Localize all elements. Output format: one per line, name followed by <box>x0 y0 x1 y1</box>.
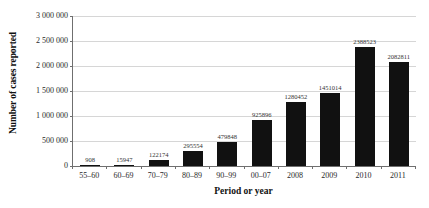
y-axis-tick-label: 2 500 000 <box>16 37 68 45</box>
bar-slot: 295554 <box>176 16 210 166</box>
bar-value-label: 2082811 <box>388 53 411 60</box>
bar-slot: 1451014 <box>313 16 347 166</box>
y-axis-tick-label: 2 000 000 <box>16 62 68 70</box>
bar[interactable] <box>252 120 272 166</box>
y-axis-tick-labels: 0500 0001 000 0001 500 0002 000 0002 500… <box>14 0 68 208</box>
x-axis-tickmark <box>175 166 176 169</box>
bar-value-label: 925896 <box>252 111 272 118</box>
x-axis-tickmark <box>415 166 416 169</box>
bar-slot: 2082811 <box>382 16 416 166</box>
x-axis-tickmark <box>141 166 142 169</box>
bar-slot: 1280452 <box>279 16 313 166</box>
bar-slot: 925896 <box>245 16 279 166</box>
bar[interactable] <box>217 142 237 166</box>
x-axis-tickmark <box>209 166 210 169</box>
x-axis-tickmark <box>244 166 245 169</box>
x-axis-title: Period or year <box>72 186 415 196</box>
x-axis-tick-labels: 55–6060–6970–7980–8990–9900–072008200920… <box>72 171 415 183</box>
x-axis-tickmark <box>278 166 279 169</box>
bar-value-label: 908 <box>85 156 95 163</box>
y-axis-tick-label: 0 <box>16 162 68 170</box>
bar[interactable] <box>389 62 409 166</box>
bar[interactable] <box>355 47 375 166</box>
x-axis-tickmark <box>106 166 107 169</box>
bar[interactable] <box>183 151 203 166</box>
bar-value-label: 15947 <box>116 156 132 163</box>
bar-value-label: 1280452 <box>285 93 308 100</box>
x-axis-tickmark <box>346 166 347 169</box>
bar-value-label: 295554 <box>183 142 203 149</box>
bar-value-label: 1451014 <box>319 84 342 91</box>
bar-value-label: 122174 <box>149 151 169 158</box>
bar[interactable] <box>286 102 306 166</box>
bar-slot: 122174 <box>142 16 176 166</box>
y-axis-tick-label: 1 000 000 <box>16 112 68 120</box>
bar-series: 9081594712217429555447984892589612804521… <box>73 16 416 166</box>
x-axis-tickmarks <box>72 166 415 170</box>
bar-slot: 479848 <box>210 16 244 166</box>
x-axis-tickmark <box>72 166 73 169</box>
y-axis-tick-label: 500 000 <box>16 137 68 145</box>
bar-slot: 15947 <box>107 16 141 166</box>
x-axis-tickmark <box>381 166 382 169</box>
y-axis-tick-label: 3 000 000 <box>16 12 68 20</box>
bar-chart: Number of cases reported 0500 0001 000 0… <box>0 0 429 208</box>
plot-area: 9081594712217429555447984892589612804521… <box>72 16 416 166</box>
bar-slot: 2388523 <box>347 16 381 166</box>
bar-slot: 908 <box>73 16 107 166</box>
bar-value-label: 479848 <box>218 133 238 140</box>
x-axis-tick-label: 2011 <box>378 171 418 181</box>
bar-value-label: 2388523 <box>353 38 376 45</box>
x-axis-tickmark <box>312 166 313 169</box>
y-axis-tick-label: 1 500 000 <box>16 87 68 95</box>
bar[interactable] <box>320 93 340 166</box>
